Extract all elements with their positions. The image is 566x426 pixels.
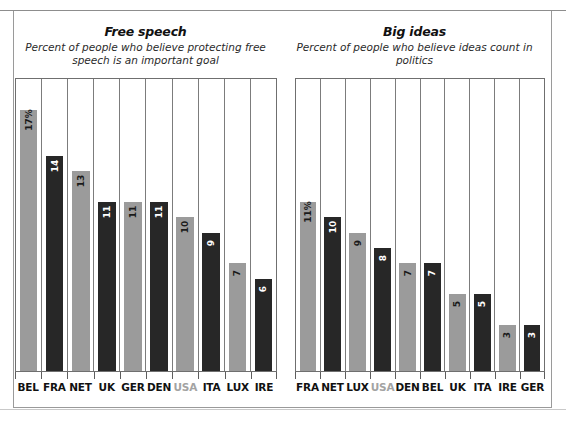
x-axis-label-net: NET bbox=[320, 381, 345, 393]
bar-cell: 9 bbox=[199, 79, 225, 371]
axis-tick bbox=[172, 372, 198, 380]
axis-tick bbox=[495, 372, 520, 380]
bar-cell: 10 bbox=[321, 79, 346, 371]
bar-den[interactable]: 7 bbox=[399, 263, 416, 371]
axis-tick bbox=[225, 372, 251, 380]
bar-value-label: 8 bbox=[378, 255, 388, 261]
bar-cell: 3 bbox=[495, 79, 520, 371]
axis-tick bbox=[470, 372, 495, 380]
bar-cell: 9 bbox=[346, 79, 371, 371]
x-axis-label-bel: BEL bbox=[420, 381, 445, 393]
bar-value-label: 17% bbox=[24, 109, 34, 131]
axis-tick bbox=[120, 372, 146, 380]
bar-cell: 7 bbox=[421, 79, 446, 371]
bar-cell: 3 bbox=[520, 79, 544, 371]
x-axis-label-ire: IRE bbox=[495, 381, 520, 393]
bar-value-label: 10 bbox=[328, 221, 338, 234]
axis-tick bbox=[15, 372, 41, 380]
bar-value-label: 9 bbox=[353, 240, 363, 246]
axis-tick bbox=[41, 372, 67, 380]
bar-value-label: 9 bbox=[206, 240, 216, 246]
x-axis-label-uk: UK bbox=[94, 381, 120, 393]
bar-cell: 17% bbox=[16, 79, 42, 371]
axis-tick bbox=[420, 372, 445, 380]
bar-net[interactable]: 10 bbox=[324, 217, 341, 371]
x-axis-label-den: DEN bbox=[146, 381, 172, 393]
bar-value-label: 13 bbox=[76, 175, 86, 188]
bar-value-label: 11% bbox=[303, 201, 313, 223]
figure-page: Free speech Percent of people who believ… bbox=[0, 0, 566, 426]
x-axis-ticks-free-speech bbox=[15, 372, 277, 380]
bar-uk[interactable]: 11 bbox=[98, 202, 116, 371]
bar-cell: 7 bbox=[225, 79, 251, 371]
bar-uk[interactable]: 5 bbox=[449, 294, 466, 371]
chart-title-free-speech: Free speech bbox=[14, 24, 277, 39]
x-axis-label-lux: LUX bbox=[225, 381, 251, 393]
chart-panel-big-ideas: Big ideas Percent of people who believe … bbox=[283, 14, 546, 394]
x-axis-label-ita: ITA bbox=[470, 381, 495, 393]
bar-value-label: 10 bbox=[180, 221, 190, 234]
x-axis-label-ger: GER bbox=[120, 381, 146, 393]
bar-ger[interactable]: 3 bbox=[524, 325, 541, 371]
x-axis-ticks-big-ideas bbox=[295, 372, 545, 380]
bottom-divider-rule bbox=[0, 409, 566, 410]
bar-lux[interactable]: 7 bbox=[229, 263, 247, 371]
bar-fra[interactable]: 14 bbox=[46, 156, 64, 371]
bar-value-label: 11 bbox=[102, 206, 112, 219]
bar-fra[interactable]: 11% bbox=[300, 202, 317, 371]
axis-tick bbox=[251, 372, 277, 380]
bar-value-label: 14 bbox=[50, 160, 60, 173]
bar-value-label: 7 bbox=[403, 270, 413, 276]
bar-bel[interactable]: 7 bbox=[424, 263, 441, 371]
axis-tick bbox=[345, 372, 370, 380]
x-axis-label-fra: FRA bbox=[295, 381, 320, 393]
chart-subtitle-free-speech: Percent of people who believe protecting… bbox=[14, 41, 277, 67]
bars-container-big-ideas: 11%1098775533 bbox=[296, 79, 544, 371]
bar-value-label: 7 bbox=[427, 270, 437, 276]
x-axis-labels-free-speech: BELFRANETUKGERDENUSAITALUXIRE bbox=[15, 381, 277, 393]
x-axis-label-fra: FRA bbox=[41, 381, 67, 393]
bar-value-label: 11 bbox=[128, 206, 138, 219]
bar-value-label: 3 bbox=[502, 332, 512, 338]
x-axis-label-ger: GER bbox=[520, 381, 545, 393]
bar-usa[interactable]: 8 bbox=[374, 248, 391, 371]
bar-net[interactable]: 13 bbox=[72, 171, 90, 371]
bar-ger[interactable]: 11 bbox=[124, 202, 142, 371]
bar-cell: 11 bbox=[94, 79, 120, 371]
axis-tick bbox=[94, 372, 120, 380]
bars-container-free-speech: 17%141311111110976 bbox=[16, 79, 276, 371]
x-axis-label-ita: ITA bbox=[198, 381, 224, 393]
bar-usa[interactable]: 10 bbox=[176, 217, 194, 371]
bar-value-label: 5 bbox=[452, 301, 462, 307]
bar-cell: 14 bbox=[42, 79, 68, 371]
x-axis-label-lux: LUX bbox=[345, 381, 370, 393]
x-axis-label-bel: BEL bbox=[15, 381, 41, 393]
x-axis-big-ideas: FRANETLUXUSADENBELUKITAIREGER bbox=[295, 372, 545, 394]
bar-cell: 10 bbox=[173, 79, 199, 371]
chart-subtitle-big-ideas: Percent of people who believe ideas coun… bbox=[283, 41, 546, 67]
bar-ire[interactable]: 6 bbox=[255, 279, 273, 371]
x-axis-label-usa: USA bbox=[172, 381, 198, 393]
axis-tick bbox=[198, 372, 224, 380]
axis-tick bbox=[395, 372, 420, 380]
bar-value-label: 5 bbox=[477, 301, 487, 307]
bar-ita[interactable]: 5 bbox=[474, 294, 491, 371]
axis-tick bbox=[370, 372, 395, 380]
bar-cell: 13 bbox=[68, 79, 94, 371]
axis-tick bbox=[445, 372, 470, 380]
bar-value-label: 6 bbox=[258, 286, 268, 292]
x-axis-label-usa: USA bbox=[370, 381, 395, 393]
bar-value-label: 7 bbox=[232, 270, 242, 276]
axis-tick bbox=[520, 372, 545, 380]
bar-lux[interactable]: 9 bbox=[349, 233, 366, 371]
bar-value-label: 11 bbox=[154, 206, 164, 219]
bar-ita[interactable]: 9 bbox=[202, 233, 220, 371]
bar-cell: 11 bbox=[146, 79, 172, 371]
bar-ire[interactable]: 3 bbox=[499, 325, 516, 371]
bar-cell: 7 bbox=[396, 79, 421, 371]
bar-cell: 5 bbox=[445, 79, 470, 371]
bar-bel[interactable]: 17% bbox=[20, 110, 38, 371]
bar-cell: 11% bbox=[296, 79, 321, 371]
bar-den[interactable]: 11 bbox=[150, 202, 168, 371]
bar-cell: 8 bbox=[371, 79, 396, 371]
